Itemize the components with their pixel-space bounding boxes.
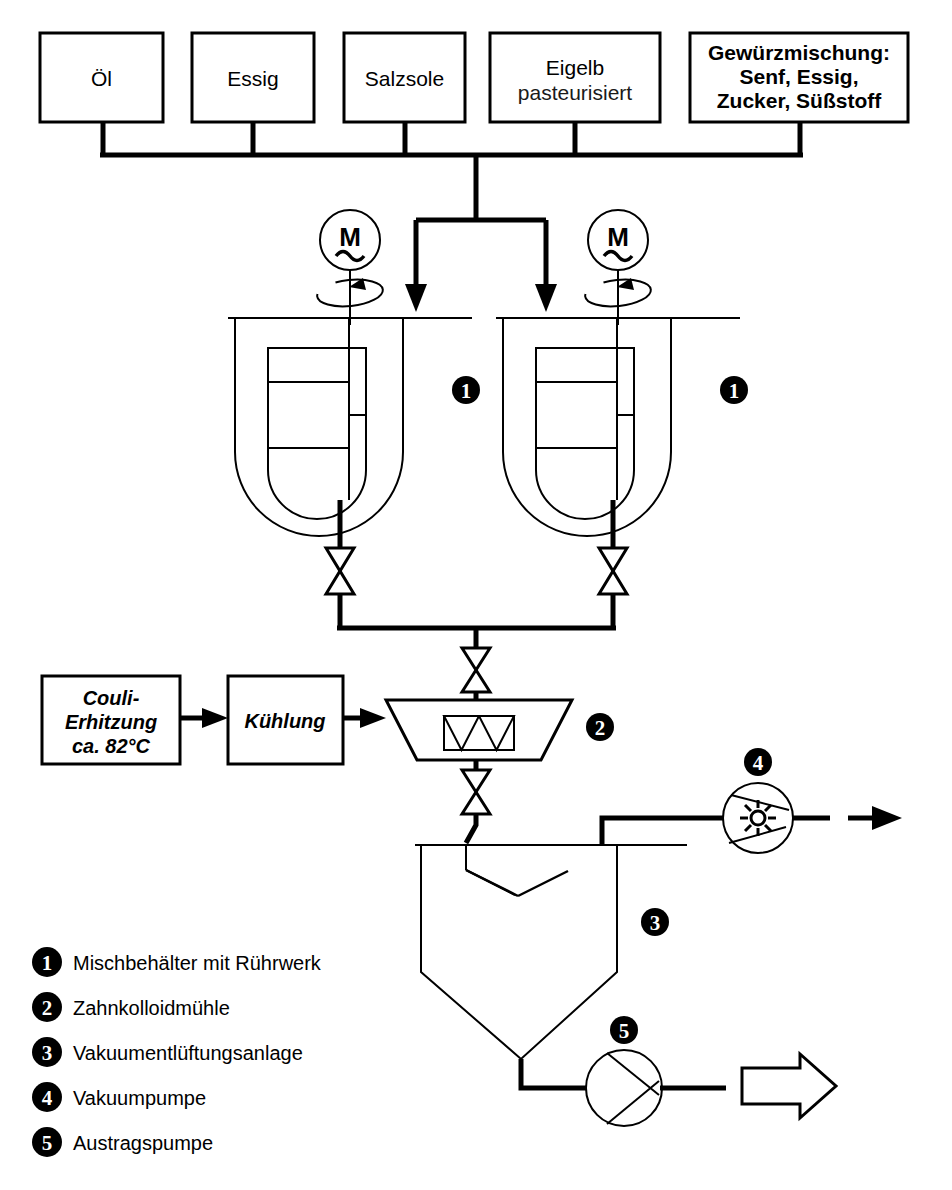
ingredient-box-salzsole-label: Salzsole <box>365 67 444 90</box>
combined-outlet-piping <box>337 594 616 648</box>
legend-item-2: 2 Zahnkolloidmühle <box>32 992 230 1022</box>
legend: 1 Mischbehälter mit Rührwerk 2 Zahnkollo… <box>32 947 322 1157</box>
legend-item-5: 5 Austragspumpe <box>32 1127 213 1157</box>
legend-item-1-number: 1 <box>42 951 53 975</box>
process-box-couli-line2: Erhitzung <box>65 711 157 733</box>
valve-vessel-left <box>326 548 354 594</box>
process-box-kuehlung: Kühlung <box>228 676 343 764</box>
vacuum-pump-sun-icon <box>740 800 776 836</box>
ingredient-box-oel-label: Öl <box>91 67 112 90</box>
motor-left-label: M <box>339 222 361 252</box>
legend-item-4-label: Vakuumpumpe <box>73 1087 206 1109</box>
vacuum-deaeration-tank: 3 <box>415 814 687 1059</box>
badge-discharge-pump-number: 5 <box>619 1019 630 1043</box>
legend-item-1-label: Mischbehälter mit Rührwerk <box>73 952 322 974</box>
ingredient-box-oel: Öl <box>40 33 163 122</box>
ingredient-box-gewuerzmischung: Gewürzmischung: Senf, Essig, Zucker, Süß… <box>690 33 908 122</box>
badge-vessel-left: 1 <box>452 376 480 404</box>
badge-vacuum-pump-number: 4 <box>753 751 764 775</box>
diagram-canvas: Öl Essig Salzsole Eigelb pasteurisiert G… <box>0 0 952 1190</box>
process-box-couli-line3: ca. 82°C <box>72 735 151 757</box>
ingredient-box-eigelb: Eigelb pasteurisiert <box>490 33 660 122</box>
legend-item-1: 1 Mischbehälter mit Rührwerk <box>32 947 322 977</box>
ingredient-box-essig: Essig <box>192 33 314 122</box>
arrow-couli-to-kuehlung <box>180 708 228 728</box>
badge-vessel-right: 1 <box>720 376 748 404</box>
motor-left: M <box>316 210 384 325</box>
legend-item-4: 4 Vakuumpumpe <box>32 1082 206 1112</box>
process-box-couli: Couli- Erhitzung ca. 82°C <box>42 676 180 764</box>
discharge-pump: 5 <box>521 1016 836 1126</box>
mixing-vessel-right: M 1 <box>496 210 748 548</box>
badge-colloid-mill: 2 <box>586 713 614 741</box>
badge-vacuum-tank-number: 3 <box>650 911 661 935</box>
ingredient-box-gewuerz-line3: Zucker, Süßstoff <box>717 89 883 112</box>
process-box-kuehlung-label: Kühlung <box>244 710 325 732</box>
badge-discharge-pump: 5 <box>610 1016 638 1044</box>
ingredient-box-gewuerz-line1: Gewürzmischung: <box>708 41 890 64</box>
ingredient-manifold-piping <box>100 122 803 312</box>
ingredient-box-eigelb-sublabel: pasteurisiert <box>518 81 633 104</box>
colloid-mill: 2 <box>386 700 614 760</box>
badge-vessel-right-number: 1 <box>729 379 740 403</box>
legend-item-2-number: 2 <box>42 996 53 1020</box>
legend-item-3-label: Vakuumentlüftungsanlage <box>73 1042 303 1064</box>
vacuum-pump: 4 <box>602 748 902 853</box>
valve-mill-inlet <box>462 648 490 692</box>
mixing-vessel-left: M 1 <box>228 210 480 548</box>
valve-mill-outlet <box>462 760 490 814</box>
legend-item-5-number: 5 <box>42 1131 53 1155</box>
ingredient-box-essig-label: Essig <box>227 67 278 90</box>
legend-item-2-label: Zahnkolloidmühle <box>73 997 230 1019</box>
ingredient-box-salzsole: Salzsole <box>344 33 465 122</box>
legend-item-3: 3 Vakuumentlüftungsanlage <box>32 1037 303 1067</box>
arrow-kuehlung-to-mill <box>343 708 386 728</box>
motor-right: M <box>584 210 652 325</box>
badge-vessel-left-number: 1 <box>461 379 472 403</box>
legend-item-4-number: 4 <box>42 1086 53 1110</box>
badge-vacuum-pump: 4 <box>744 748 772 776</box>
valve-vessel-right <box>599 548 627 594</box>
badge-colloid-mill-number: 2 <box>595 716 606 740</box>
process-flow-diagram: Öl Essig Salzsole Eigelb pasteurisiert G… <box>0 0 952 1190</box>
ingredient-box-eigelb-label: Eigelb <box>546 56 604 79</box>
badge-vacuum-tank: 3 <box>641 908 669 936</box>
legend-item-5-label: Austragspumpe <box>73 1132 213 1154</box>
ingredient-box-gewuerz-line2: Senf, Essig, <box>739 65 858 88</box>
process-box-couli-line1: Couli- <box>83 687 140 709</box>
motor-right-label: M <box>607 222 629 252</box>
legend-item-3-number: 3 <box>42 1041 53 1065</box>
product-outlet-arrow <box>742 1054 836 1118</box>
